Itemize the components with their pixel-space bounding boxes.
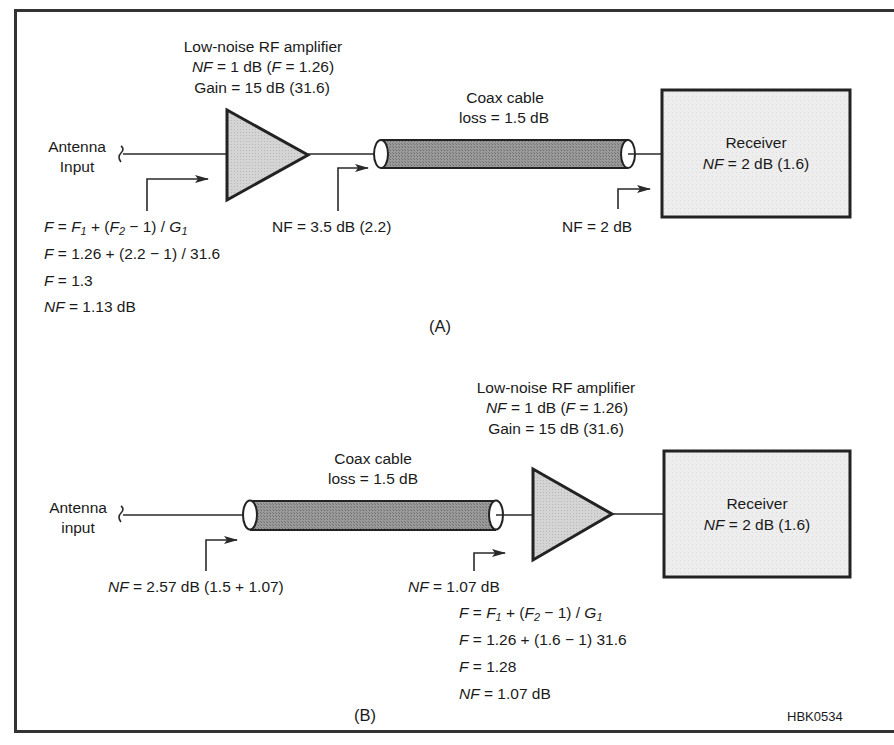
amplifier-a-nf: NF = 1 dB (F = 1.26): [192, 57, 334, 77]
arrow-a-receiver-icon: [618, 189, 650, 209]
antenna-a-label-line1: Antenna: [48, 137, 106, 157]
nf-b-at-antenna: NF = 2.57 dB (1.5 + 1.07): [108, 577, 284, 597]
receiver-b-box: [664, 451, 850, 577]
arrow-b-amp-input-icon: [474, 553, 505, 571]
antenna-a-icon: [119, 146, 123, 162]
equation-b-line1: F = F1 + (F2 − 1) / G1: [459, 600, 602, 630]
arrow-b-input-icon: [206, 540, 237, 571]
amplifier-b-icon: [533, 469, 612, 560]
caption-a: (A): [429, 316, 451, 336]
coax-b-icon: [243, 501, 503, 531]
amplifier-a-gain: Gain = 15 dB (31.6): [194, 78, 330, 98]
arrow-a-amp-output-icon: [338, 168, 368, 211]
figure-id: HBK0534: [787, 709, 843, 724]
equation-a-line1: F = F1 + (F2 − 1) / G1: [44, 214, 187, 244]
receiver-b-nf: NF = 2 dB (1.6): [704, 515, 810, 535]
nf-a-at-receiver: NF = 2 dB: [562, 217, 632, 237]
coax-b-loss: loss = 1.5 dB: [328, 469, 418, 489]
equation-a-line3: F = 1.3: [44, 268, 93, 294]
amplifier-b-title: Low-noise RF amplifier: [477, 378, 636, 398]
amplifier-b-nf: NF = 1 dB (F = 1.26): [486, 398, 628, 418]
equation-b-line2: F = 1.26 + (1.6 − 1) 31.6: [459, 627, 627, 653]
equation-b-line3: F = 1.28: [459, 654, 516, 680]
amplifier-a-title: Low-noise RF amplifier: [184, 37, 343, 57]
caption-b: (B): [354, 705, 376, 725]
equation-a-line4: NF = 1.13 dB: [44, 294, 136, 320]
coax-b-title: Coax cable: [334, 449, 412, 469]
panel-b: [119, 451, 850, 577]
receiver-a-title: Receiver: [725, 133, 786, 153]
antenna-a-label-line2: Input: [60, 157, 94, 177]
amplifier-a-icon: [227, 110, 308, 200]
receiver-a-nf: NF = 2 dB (1.6): [703, 154, 809, 174]
nf-b-at-amp: NF = 1.07 dB: [408, 577, 500, 597]
receiver-b-title: Receiver: [726, 494, 787, 514]
coax-a-loss: loss = 1.5 dB: [459, 108, 549, 128]
equation-b-line4: NF = 1.07 dB: [459, 681, 551, 707]
equation-a-line2: F = 1.26 + (2.2 − 1) / 31.6: [44, 241, 220, 267]
nf-a-after-amp: NF = 3.5 dB (2.2): [272, 217, 391, 237]
coax-a-icon: [374, 140, 635, 168]
antenna-b-label-line2: input: [61, 518, 95, 538]
arrow-a-input-icon: [147, 179, 208, 211]
antenna-b-label-line1: Antenna: [49, 498, 107, 518]
amplifier-b-gain: Gain = 15 dB (31.6): [488, 419, 624, 439]
coax-a-title: Coax cable: [466, 88, 544, 108]
antenna-b-icon: [119, 506, 123, 522]
